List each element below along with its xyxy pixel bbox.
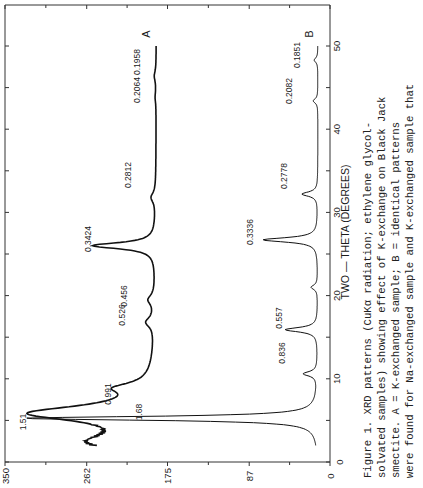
intensity-tick-label: 175 — [162, 468, 173, 484]
two-theta-tick-label: 10 — [331, 374, 342, 385]
two-theta-tick-label: 40 — [331, 124, 342, 135]
intensity-axis-ticks — [5, 5, 330, 466]
peak-labels: 1.510.9910.5260.4560.34240.28120.20640.1… — [18, 42, 302, 431]
series-label-b: B — [303, 30, 315, 37]
peak-label: 0.1851 — [292, 42, 302, 68]
intensity-tick-label: 262 — [81, 468, 92, 484]
peak-label: 0.2778 — [279, 163, 289, 189]
caption-line-3: smectite. A = K-exchanged sample; B = id… — [390, 122, 402, 478]
peak-label: 0.836 — [277, 342, 287, 364]
intensity-tick-label: 0 — [325, 473, 336, 478]
xrd-figure: 087175262350 01020304050 TWO — THETA (DE… — [0, 0, 423, 488]
two-theta-axis-title: TWO — THETA (DEGREES) — [339, 165, 351, 300]
plot-frame — [5, 5, 330, 462]
chart-svg: 087175262350 01020304050 TWO — THETA (DE… — [0, 0, 423, 488]
peak-label: 0.991 — [103, 383, 113, 405]
peak-label: 1.51 — [18, 413, 28, 430]
peak-label: 0.456 — [119, 285, 129, 307]
intensity-axis-labels: 087175262350 — [0, 468, 336, 484]
peak-label: 0.557 — [274, 307, 284, 329]
peak-label: 0.3336 — [245, 219, 255, 245]
intensity-tick-label: 350 — [0, 468, 11, 484]
caption-line-2: solvated samples) showing effect of K-ex… — [376, 97, 388, 478]
peak-label: 1.68 — [134, 403, 144, 420]
caption-line-4: were found for Na-exchanged sample and K… — [404, 84, 416, 478]
two-theta-tick-label: 50 — [331, 41, 342, 52]
peak-label: 0.2812 — [123, 162, 133, 188]
trace-b — [27, 46, 318, 445]
intensity-tick-label: 87 — [244, 471, 255, 482]
two-theta-axis-ticks — [5, 46, 330, 462]
peak-label: 0.3424 — [83, 226, 93, 252]
series-label-a: A — [140, 30, 152, 38]
two-theta-tick-label: 0 — [334, 459, 345, 464]
peak-label: 0.2082 — [284, 78, 294, 104]
caption-line-1: Figure 1. XRD patterns (CuKα radiation; … — [362, 122, 374, 478]
peak-label: 0.1958 — [132, 49, 142, 75]
peak-label: 0.2064 — [132, 77, 142, 103]
